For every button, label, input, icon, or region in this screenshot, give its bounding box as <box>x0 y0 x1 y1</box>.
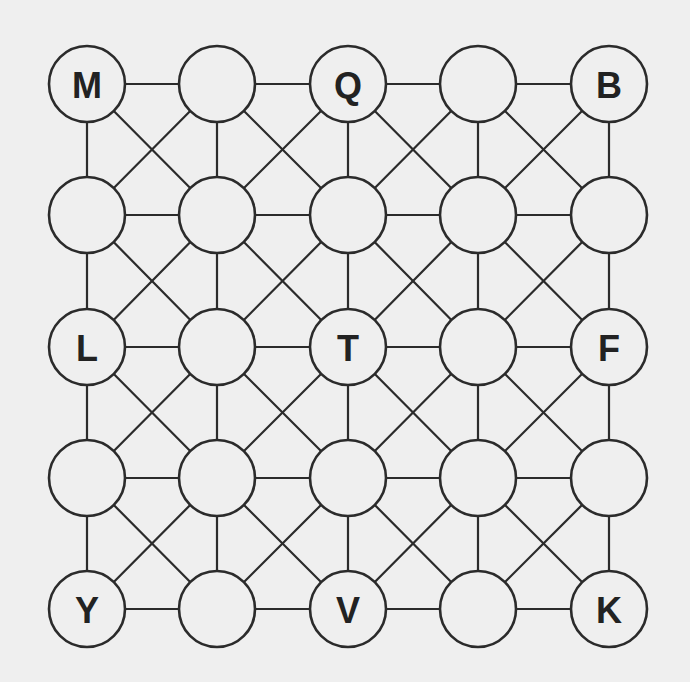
node-circle <box>440 309 516 385</box>
node-empty <box>179 440 255 516</box>
node-letter: Q <box>334 65 362 106</box>
node-circle <box>179 440 255 516</box>
node-q: Q <box>310 46 386 122</box>
node-circle <box>440 177 516 253</box>
node-empty <box>49 177 125 253</box>
node-circle <box>179 571 255 647</box>
node-circle <box>571 177 647 253</box>
node-empty <box>440 46 516 122</box>
node-v: V <box>310 571 386 647</box>
node-letter: L <box>76 328 98 369</box>
node-letter: F <box>598 328 620 369</box>
node-k: K <box>571 571 647 647</box>
node-empty <box>440 309 516 385</box>
node-circle <box>571 440 647 516</box>
node-empty <box>179 177 255 253</box>
node-empty <box>571 440 647 516</box>
node-empty <box>571 177 647 253</box>
node-empty <box>440 177 516 253</box>
node-letter: B <box>596 65 622 106</box>
node-circle <box>179 46 255 122</box>
node-m: M <box>49 46 125 122</box>
node-letter: K <box>596 590 622 631</box>
puzzle-board: MQBLTFYVK <box>0 0 690 682</box>
node-letter: Y <box>75 590 99 631</box>
node-empty <box>179 46 255 122</box>
node-empty <box>179 571 255 647</box>
node-l: L <box>49 309 125 385</box>
node-y: Y <box>49 571 125 647</box>
node-empty <box>440 440 516 516</box>
node-empty <box>310 177 386 253</box>
node-empty <box>179 309 255 385</box>
node-circle <box>179 177 255 253</box>
node-b: B <box>571 46 647 122</box>
node-circle <box>49 177 125 253</box>
node-empty <box>310 440 386 516</box>
node-circle <box>49 440 125 516</box>
node-circle <box>440 571 516 647</box>
node-circle <box>179 309 255 385</box>
node-f: F <box>571 309 647 385</box>
node-letter: T <box>337 328 359 369</box>
node-t: T <box>310 309 386 385</box>
node-circle <box>440 46 516 122</box>
node-circle <box>440 440 516 516</box>
node-letter: M <box>72 65 102 106</box>
node-empty <box>49 440 125 516</box>
node-letter: V <box>336 590 360 631</box>
node-circle <box>310 177 386 253</box>
node-circle <box>310 440 386 516</box>
node-empty <box>440 571 516 647</box>
